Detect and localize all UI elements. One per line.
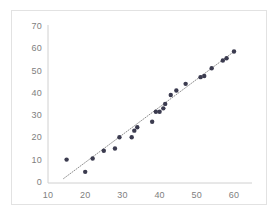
axis-lines xyxy=(48,25,252,183)
data-point xyxy=(132,128,136,132)
data-point xyxy=(130,135,134,139)
data-point xyxy=(113,146,117,150)
data-point xyxy=(183,82,187,86)
x-tick-label: 20 xyxy=(74,190,96,200)
data-point xyxy=(150,120,154,124)
data-point xyxy=(163,102,167,106)
data-point xyxy=(221,58,225,62)
data-point xyxy=(209,66,213,70)
data-points xyxy=(64,49,236,174)
y-tick-label: 0 xyxy=(22,177,42,187)
x-tick-label: 10 xyxy=(37,190,59,200)
data-point xyxy=(64,157,68,161)
data-point xyxy=(198,75,202,79)
data-point xyxy=(161,106,165,110)
data-point xyxy=(135,125,139,129)
y-tick-label: 70 xyxy=(22,21,42,31)
data-point xyxy=(102,148,106,152)
y-tick-label: 20 xyxy=(22,132,42,142)
chart-frame: 706050403020100 102030405060 xyxy=(11,10,267,205)
y-tick-label: 30 xyxy=(22,110,42,120)
y-tick-label: 60 xyxy=(22,43,42,53)
data-point xyxy=(157,109,161,113)
data-point xyxy=(117,135,121,139)
x-tick-label: 30 xyxy=(111,190,133,200)
data-point xyxy=(90,156,94,160)
data-point xyxy=(202,74,206,78)
x-tick-label: 40 xyxy=(149,190,171,200)
x-tick-label: 60 xyxy=(223,190,245,200)
y-tick-label: 40 xyxy=(22,88,42,98)
data-point xyxy=(83,170,87,174)
y-tick-label: 10 xyxy=(22,155,42,165)
data-point xyxy=(224,56,228,60)
data-point xyxy=(174,88,178,92)
data-point xyxy=(169,93,173,97)
plot-area xyxy=(12,11,266,204)
data-point xyxy=(232,49,236,53)
y-tick-label: 50 xyxy=(22,66,42,76)
scatter-chart-container: 706050403020100 102030405060 xyxy=(0,0,279,218)
x-tick-label: 50 xyxy=(186,190,208,200)
